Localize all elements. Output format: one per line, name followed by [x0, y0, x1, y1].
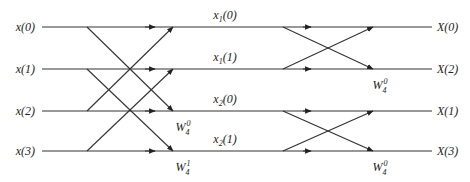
twiddle-factor-label: W04 [373, 77, 388, 95]
input-label: x(0) [15, 20, 35, 34]
twiddle-factor-label: W04 [176, 119, 191, 137]
output-label: X(1) [436, 104, 458, 118]
butterfly-diagram: x(0)x(1)x(2)x(3)X(0)X(2)X(1)X(3)x1(0)x1(… [0, 0, 470, 182]
output-label: X(0) [436, 20, 458, 34]
output-label: X(3) [436, 144, 458, 158]
intermediate-label: x2(1) [212, 132, 236, 148]
input-label: x(2) [15, 104, 35, 118]
intermediate-label: x1(0) [212, 8, 236, 24]
intermediate-label: x2(0) [212, 92, 236, 108]
twiddle-factor-label: W04 [373, 159, 388, 177]
input-label: x(3) [15, 144, 35, 158]
intermediate-label: x1(1) [212, 50, 236, 66]
output-label: X(2) [436, 62, 458, 76]
twiddle-factor-label: W14 [176, 159, 191, 177]
node-labels: x(0)x(1)x(2)x(3)X(0)X(2)X(1)X(3)x1(0)x1(… [15, 8, 459, 177]
input-label: x(1) [15, 62, 35, 76]
